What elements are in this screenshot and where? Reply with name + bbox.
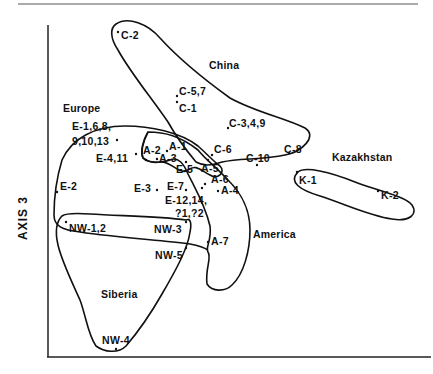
region-label-kazakhstan: Kazakhstan	[332, 151, 392, 163]
point-label-nw12: NW-1,2	[69, 222, 106, 234]
region-label-america: America	[253, 228, 296, 240]
point-dot	[207, 159, 209, 161]
region-label-europe: Europe	[63, 102, 100, 114]
point-dot	[185, 247, 187, 249]
point-label-a3: A-3	[159, 152, 177, 164]
point-dot	[115, 348, 117, 350]
point-label-nw4: NW-4	[102, 334, 130, 346]
point-label-a7: A-7	[211, 235, 229, 247]
point-label-e411: E-4,11	[96, 152, 128, 164]
point-dot	[156, 189, 158, 191]
region-label-siberia: Siberia	[101, 288, 137, 300]
point-dot	[217, 190, 219, 192]
point-dot	[201, 187, 203, 189]
point-label-q12: ?1,?2	[175, 207, 204, 219]
point-label-e1214: E-12,14,	[165, 194, 207, 206]
cluster-diagram: AXIS 3 China Europe America Kazakhstan S…	[0, 0, 433, 374]
point-label-c349: C-3,4,9	[229, 117, 266, 129]
y-axis-title: AXIS 3	[16, 196, 30, 240]
point-dot	[296, 171, 298, 173]
point-dot	[176, 95, 178, 97]
point-label-c1: C-1	[179, 102, 197, 114]
point-dot	[377, 190, 379, 192]
point-dot	[117, 31, 119, 33]
point-label-c10: C-10	[246, 152, 270, 164]
point-dot	[56, 191, 58, 193]
point-label-a4: A-4	[221, 184, 239, 196]
point-dot	[185, 189, 187, 191]
point-label-k1: K-1	[299, 174, 317, 186]
point-dot	[156, 158, 158, 160]
point-dot	[207, 241, 209, 243]
point-label-e7: E-7	[167, 180, 184, 192]
point-label-a1: A-1	[169, 140, 187, 152]
point-label-nw3: NW-3	[154, 223, 182, 235]
point-label-c8: C-8	[284, 143, 302, 155]
point-dot	[256, 164, 258, 166]
point-label-e3: E-3	[134, 182, 151, 194]
point-label-e1: E-1,6,8,	[72, 120, 111, 132]
point-label-e1-cont: 9,10,13	[72, 135, 109, 147]
point-label-c57: C-5,7	[179, 85, 206, 97]
point-dot	[135, 153, 137, 155]
region-label-china: China	[209, 59, 239, 71]
china-outline	[112, 21, 310, 165]
point-dot	[65, 221, 67, 223]
point-label-c6: C-6	[214, 143, 232, 155]
point-label-k2: K-2	[381, 189, 399, 201]
point-dot	[211, 154, 213, 156]
point-dot	[176, 101, 178, 103]
point-label-e2: E-2	[60, 180, 77, 192]
point-dot	[185, 221, 187, 223]
point-label-c2: C-2	[121, 29, 139, 41]
point-label-e5: E-5	[176, 163, 193, 175]
point-label-nw5: NW-5	[155, 249, 183, 261]
point-dot	[204, 183, 206, 185]
point-dot	[116, 139, 118, 141]
point-dot	[145, 159, 147, 161]
